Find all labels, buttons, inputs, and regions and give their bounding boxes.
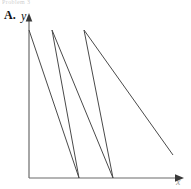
x-axis-arrow-icon — [175, 174, 184, 182]
y-axis-arrow-icon — [26, 13, 33, 22]
sawtooth-waveform — [29, 30, 173, 178]
plot-area — [0, 0, 191, 189]
figure-panel-a: Problem 3 A. y x — [0, 0, 191, 189]
